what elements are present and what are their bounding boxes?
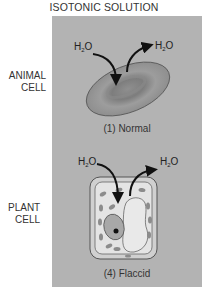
plant-h2o-out: H2O: [160, 156, 179, 168]
animal-h2o-in: H2O: [74, 41, 93, 53]
plant-caption: (4) Flaccid: [52, 268, 202, 279]
plant-cell: [90, 177, 157, 259]
animal-caption: (1) Normal: [52, 123, 202, 134]
diagram-graphics: H2O H2O H2O H2O: [0, 0, 208, 291]
animal-h2o-out: H2O: [155, 40, 174, 52]
plant-h2o-in: H2O: [78, 156, 97, 168]
